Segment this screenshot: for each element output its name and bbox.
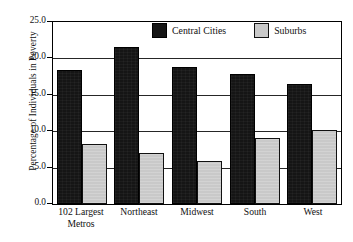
- x-tick-label: West: [284, 206, 342, 229]
- bar-group: [168, 22, 226, 204]
- bar-central-cities: [287, 84, 312, 204]
- bar-suburbs: [255, 138, 280, 204]
- legend-swatch-central-cities: [152, 23, 167, 38]
- bar-suburbs: [139, 153, 164, 204]
- poverty-bar-chart: Percentage of Individuals in Poverty 0.0…: [0, 0, 353, 242]
- bar-suburbs: [82, 144, 107, 204]
- x-tick-label: South: [226, 206, 284, 229]
- y-tick-label: 15.0: [4, 89, 46, 98]
- bar-central-cities: [230, 74, 255, 204]
- x-tick-label: 102 LargestMetros: [52, 206, 110, 229]
- x-tick-label: Northeast: [110, 206, 168, 229]
- y-tick-mark: [47, 57, 52, 58]
- y-tick-mark: [47, 94, 52, 95]
- bar-central-cities: [172, 67, 197, 204]
- bar-group: [283, 22, 341, 204]
- y-tick-label: 0.0: [4, 198, 46, 207]
- legend-label-suburbs: Suburbs: [274, 25, 306, 36]
- legend-swatch-suburbs: [254, 23, 269, 38]
- bar-suburbs: [197, 161, 222, 204]
- x-axis-labels: 102 LargestMetrosNortheastMidwestSouthWe…: [52, 206, 342, 229]
- bar-group: [111, 22, 169, 204]
- y-tick-mark: [47, 167, 52, 168]
- bars-layer: [53, 22, 341, 204]
- y-tick-label: 25.0: [4, 16, 46, 25]
- y-tick-label: 5.0: [4, 162, 46, 171]
- y-tick-mark: [47, 21, 52, 22]
- y-tick-label: 20.0: [4, 52, 46, 61]
- chart-legend: Central Cities Suburbs: [152, 23, 306, 38]
- bar-group: [53, 22, 111, 204]
- x-tick-label: Midwest: [168, 206, 226, 229]
- y-tick-mark: [47, 130, 52, 131]
- legend-item-central-cities: Central Cities: [152, 23, 226, 38]
- legend-label-central-cities: Central Cities: [172, 25, 226, 36]
- y-tick-mark: [47, 203, 52, 204]
- bar-central-cities: [114, 47, 139, 204]
- legend-item-suburbs: Suburbs: [254, 23, 306, 38]
- bar-group: [226, 22, 284, 204]
- bar-central-cities: [57, 70, 82, 204]
- bar-suburbs: [312, 130, 337, 204]
- plot-area: [52, 21, 342, 205]
- y-tick-label: 10.0: [4, 125, 46, 134]
